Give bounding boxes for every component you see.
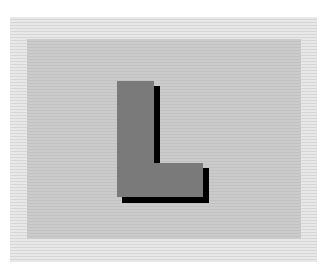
l-shadow-vertical bbox=[154, 86, 160, 164]
l-horizontal-stroke bbox=[117, 163, 203, 197]
l-shadow-bottom bbox=[122, 197, 209, 203]
inner-panel bbox=[27, 39, 301, 239]
